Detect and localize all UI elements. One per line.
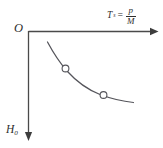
x-axis-label: Ts = p M <box>107 6 136 26</box>
equals-sign: = <box>117 11 123 21</box>
x-axis-symbol: T <box>107 11 112 21</box>
fraction-numerator: p <box>128 6 135 16</box>
y-axis-label: H0 <box>6 124 18 137</box>
plot-canvas <box>0 0 163 148</box>
y-axis-subscript: 0 <box>14 129 18 137</box>
fraction-denominator: M <box>126 17 136 27</box>
x-axis-equation: Ts = p M <box>107 6 136 26</box>
data-point-marker-1 <box>62 65 69 72</box>
x-axis-subscript: s <box>113 13 115 19</box>
data-point-marker-2 <box>100 92 107 99</box>
fraction: p M <box>126 6 136 26</box>
origin-label: O <box>14 22 23 35</box>
x-axis-arrow-right-icon <box>150 28 159 35</box>
y-axis-arrow-down-icon <box>25 132 32 141</box>
figure-container: O H0 Ts = p M <box>0 0 163 148</box>
data-curve <box>48 42 134 103</box>
